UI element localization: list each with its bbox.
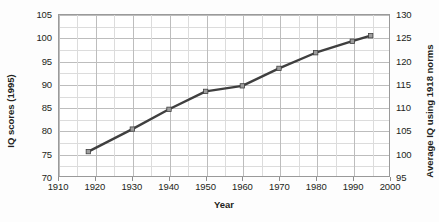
x-axis-tick-mark — [242, 177, 243, 181]
x-axis-tick-mark — [390, 177, 391, 181]
x-axis-tick-label: 1990 — [343, 181, 364, 192]
x-axis-tick-mark — [279, 177, 280, 181]
y-axis-right-tick-label: 130 — [396, 9, 412, 20]
x-axis-tick-label: 1940 — [158, 181, 179, 192]
data-point-marker — [86, 149, 90, 153]
x-axis-tick-mark — [58, 177, 59, 181]
x-axis-tick-mark — [316, 177, 317, 181]
data-point-marker — [203, 89, 207, 93]
x-axis-tick-label: 1930 — [121, 181, 142, 192]
x-axis-tick-mark — [132, 177, 133, 181]
y-axis-left-tick-label: 100 — [20, 32, 52, 43]
data-point-marker — [313, 51, 317, 55]
y-axis-left-tick-label: 80 — [20, 125, 52, 136]
x-axis-tick-mark — [95, 177, 96, 181]
x-axis-tick-label: 1970 — [269, 181, 290, 192]
y-axis-left-tick-label: 85 — [20, 102, 52, 113]
x-axis-tick-label: 1980 — [306, 181, 327, 192]
x-axis-tick-mark — [169, 177, 170, 181]
x-axis-tick-label: 1960 — [232, 181, 253, 192]
x-axis-tick-label: 2000 — [380, 181, 401, 192]
series-line — [88, 36, 370, 152]
y-axis-right-tick-label: 110 — [396, 102, 411, 113]
x-axis-tick-label: 1920 — [85, 181, 106, 192]
data-point-marker — [277, 66, 281, 70]
data-point-marker — [167, 107, 171, 111]
y-axis-left-tick-label: 95 — [20, 55, 52, 66]
y-axis-left-tick-label: 90 — [20, 78, 52, 89]
y-axis-right-tick-label: 115 — [396, 78, 411, 89]
y-axis-right-tick-label: 125 — [396, 32, 412, 43]
plot-area — [58, 14, 390, 177]
y-axis-right-tick-label: 105 — [396, 125, 412, 136]
y-axis-left-tick-label: 105 — [20, 9, 52, 20]
data-series-line — [59, 15, 389, 176]
y-axis-left-tick-label: 75 — [20, 148, 52, 159]
data-point-marker — [130, 127, 134, 131]
x-axis-title: Year — [58, 199, 390, 210]
data-point-marker — [368, 34, 372, 38]
y-axis-right-tick-label: 120 — [396, 55, 412, 66]
chart-container: IQ scores (1995) Average IQ using 1918 n… — [0, 0, 439, 222]
x-axis-tick-mark — [206, 177, 207, 181]
data-point-marker — [240, 84, 244, 88]
x-axis-tick-mark — [353, 177, 354, 181]
y-axis-right-title: Average IQ using 1918 norms — [424, 31, 435, 191]
x-axis-tick-label: 1910 — [48, 181, 69, 192]
y-axis-right-tick-label: 100 — [396, 148, 412, 159]
data-point-marker — [350, 39, 354, 43]
y-axis-left-title: IQ scores (1995) — [5, 51, 16, 171]
x-axis-tick-label: 1950 — [195, 181, 216, 192]
